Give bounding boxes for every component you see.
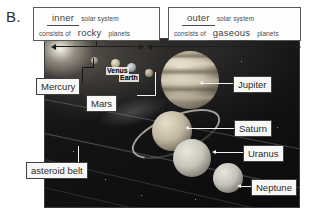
statement-box-outer: outer solar system consists of gaseous p…: [168, 7, 301, 41]
leader-saturn-tip: [185, 126, 189, 130]
statement-left-text-1: solar system: [81, 14, 119, 23]
statement-right-text-1: solar system: [217, 14, 255, 23]
statement-left-text-2: consists of: [39, 29, 71, 38]
leader-mars: [137, 95, 156, 96]
statement-right-text-3: planets: [257, 29, 279, 38]
leader-neptune-tip: [237, 184, 241, 188]
planet-jupiter: [161, 51, 219, 109]
blank-rocky-answer[interactable]: rocky: [73, 26, 107, 41]
leader-mercury: [82, 67, 94, 68]
statement-right-text-2: consists of: [174, 29, 206, 38]
planet-neptune: [213, 163, 243, 193]
worksheet-figure: B. inner solar system consists of rocky …: [0, 0, 311, 215]
leader-uranus-tip: [212, 150, 216, 154]
inline-label-earth: Earth: [119, 74, 139, 82]
planet-mars: [145, 69, 153, 77]
statement-box-inner: inner solar system consists of rocky pla…: [33, 7, 160, 41]
leader-mars: [155, 72, 156, 96]
callout-mars[interactable]: Mars: [86, 95, 117, 112]
blank-gaseous-answer[interactable]: gaseous: [208, 26, 255, 41]
callout-jupiter[interactable]: Jupiter: [233, 76, 272, 93]
statement-left-text-3: planets: [109, 29, 131, 38]
planet-uranus: [173, 139, 211, 177]
leader-jupiter-tip: [199, 81, 203, 85]
callout-uranus[interactable]: Uranus: [243, 145, 284, 162]
callout-neptune[interactable]: Neptune: [251, 179, 297, 196]
part-letter: B.: [6, 8, 21, 25]
leader-mercury: [82, 67, 83, 83]
callout-saturn[interactable]: Saturn: [234, 120, 272, 137]
leader-uranus: [215, 152, 246, 153]
callout-mercury[interactable]: Mercury: [36, 78, 80, 95]
callout-asteroid-belt[interactable]: asteroid belt: [26, 162, 88, 179]
leader-saturn: [188, 128, 236, 129]
blank-outer-answer[interactable]: outer: [182, 11, 215, 26]
leader-jupiter: [202, 83, 236, 84]
blank-inner-answer[interactable]: inner: [47, 11, 79, 26]
